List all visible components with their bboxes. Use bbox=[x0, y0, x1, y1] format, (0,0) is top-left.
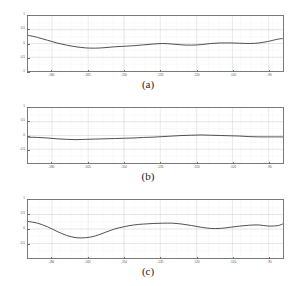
plot-area-b: -0.500.51 -180-165-150-135-120-105-90 bbox=[27, 107, 284, 164]
ytick-mark-a-4 bbox=[27, 15, 30, 16]
xtick-label-b-6: -90 bbox=[267, 166, 271, 169]
ytick-label-b-2: 0.5 bbox=[21, 120, 25, 123]
axes-frame-c bbox=[27, 199, 284, 259]
xtick-mark-c-4 bbox=[197, 257, 198, 260]
xtick-mark-a-4 bbox=[197, 70, 198, 73]
xtick-label-b-1: -165 bbox=[85, 166, 91, 169]
plot-area-a: -1-0.500.51 -180-165-150-135-120-105-90 bbox=[27, 15, 284, 72]
xtick-label-a-1: -165 bbox=[85, 74, 91, 77]
xtick-label-c-0: -180 bbox=[48, 261, 54, 264]
xtick-label-b-2: -150 bbox=[121, 166, 127, 169]
xtick-label-b-5: -105 bbox=[230, 166, 236, 169]
xtick-mark-c-2 bbox=[124, 257, 125, 260]
axes-frame-b bbox=[27, 107, 284, 164]
xtick-mark-a-5 bbox=[233, 70, 234, 73]
ytick-label-a-2: 0 bbox=[23, 42, 25, 45]
ytick-label-b-1: 0 bbox=[23, 134, 25, 137]
ytick-mark-b-2 bbox=[27, 121, 30, 122]
xtick-label-b-4: -120 bbox=[194, 166, 200, 169]
xtick-mark-c-3 bbox=[160, 257, 161, 260]
ytick-label-a-1: -0.5 bbox=[20, 56, 25, 59]
xtick-mark-a-3 bbox=[160, 70, 161, 73]
xtick-label-b-0: -180 bbox=[48, 166, 54, 169]
ytick-mark-c-3 bbox=[27, 199, 30, 200]
xtick-label-c-6: -90 bbox=[267, 261, 271, 264]
ytick-mark-a-3 bbox=[27, 29, 30, 30]
curve-a bbox=[28, 16, 283, 71]
ytick-mark-b-1 bbox=[27, 136, 30, 137]
ytick-label-c-3: 1 bbox=[23, 197, 25, 200]
xtick-label-c-1: -165 bbox=[85, 261, 91, 264]
xtick-label-a-6: -90 bbox=[267, 74, 271, 77]
ytick-label-b-3: 1 bbox=[23, 105, 25, 108]
ytick-mark-c-2 bbox=[27, 214, 30, 215]
ytick-mark-b-0 bbox=[27, 150, 30, 151]
ytick-mark-c-1 bbox=[27, 229, 30, 230]
xtick-label-b-3: -135 bbox=[157, 166, 163, 169]
xtick-mark-c-6 bbox=[269, 257, 270, 260]
caption-c: (c) bbox=[0, 265, 296, 277]
panel-b: -0.500.51 -180-165-150-135-120-105-90 (b… bbox=[0, 98, 296, 190]
axes-frame-a bbox=[27, 15, 284, 72]
xtick-label-a-0: -180 bbox=[48, 74, 54, 77]
xtick-label-c-5: -105 bbox=[230, 261, 236, 264]
plot-area-c: -0.500.51 -180-165-150-135-120-105-90 bbox=[27, 199, 284, 259]
xtick-mark-b-3 bbox=[160, 162, 161, 165]
ytick-label-a-3: 0.5 bbox=[21, 28, 25, 31]
xtick-label-a-5: -105 bbox=[230, 74, 236, 77]
xtick-mark-c-5 bbox=[233, 257, 234, 260]
xtick-mark-a-0 bbox=[51, 70, 52, 73]
xtick-mark-b-1 bbox=[88, 162, 89, 165]
ytick-mark-a-0 bbox=[27, 72, 30, 73]
caption-b: (b) bbox=[0, 170, 296, 182]
xtick-mark-b-4 bbox=[197, 162, 198, 165]
ytick-label-a-0: -1 bbox=[22, 70, 25, 73]
caption-a: (a) bbox=[0, 78, 296, 90]
ytick-mark-c-0 bbox=[27, 244, 30, 245]
panel-c: -0.500.51 -180-165-150-135-120-105-90 (c… bbox=[0, 190, 296, 286]
xtick-mark-b-2 bbox=[124, 162, 125, 165]
curve-b bbox=[28, 108, 283, 163]
xtick-mark-a-2 bbox=[124, 70, 125, 73]
xtick-label-a-2: -150 bbox=[121, 74, 127, 77]
xtick-mark-a-6 bbox=[269, 70, 270, 73]
ytick-label-b-0: -0.5 bbox=[20, 148, 25, 151]
ytick-label-c-1: 0 bbox=[23, 227, 25, 230]
ytick-label-c-0: -0.5 bbox=[20, 242, 25, 245]
xtick-label-a-4: -120 bbox=[194, 74, 200, 77]
figure-container: -1-0.500.51 -180-165-150-135-120-105-90 … bbox=[0, 0, 296, 286]
xtick-label-c-4: -120 bbox=[194, 261, 200, 264]
panel-a: -1-0.500.51 -180-165-150-135-120-105-90 … bbox=[0, 6, 296, 98]
ytick-mark-a-2 bbox=[27, 44, 30, 45]
xtick-mark-c-1 bbox=[88, 257, 89, 260]
xtick-mark-c-0 bbox=[51, 257, 52, 260]
xtick-label-a-3: -135 bbox=[157, 74, 163, 77]
xtick-mark-b-6 bbox=[269, 162, 270, 165]
xtick-mark-b-5 bbox=[233, 162, 234, 165]
curve-c bbox=[28, 200, 283, 258]
xtick-mark-a-1 bbox=[88, 70, 89, 73]
xtick-label-c-3: -135 bbox=[157, 261, 163, 264]
xtick-mark-b-0 bbox=[51, 162, 52, 165]
ytick-mark-a-1 bbox=[27, 58, 30, 59]
ytick-mark-b-3 bbox=[27, 107, 30, 108]
ytick-label-a-4: 1 bbox=[23, 13, 25, 16]
ytick-label-c-2: 0.5 bbox=[21, 212, 25, 215]
xtick-label-c-2: -150 bbox=[121, 261, 127, 264]
